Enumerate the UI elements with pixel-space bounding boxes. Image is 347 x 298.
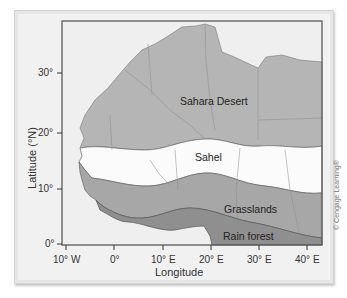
label-sahel: Sahel <box>195 151 222 163</box>
x-tick-10e: 10° E <box>151 254 176 265</box>
y-axis-title: Latitude (°N) <box>26 118 38 198</box>
y-tick-10: 10° <box>38 183 53 194</box>
y-tick-20: 20° <box>38 127 53 138</box>
copyright-credit: © Cengage Learning® <box>333 160 340 230</box>
label-sahara-desert: Sahara Desert <box>180 95 248 107</box>
x-tick-0: 0° <box>110 254 120 265</box>
y-axis-ticks <box>57 73 62 244</box>
x-axis-title: Longitude <box>155 266 203 278</box>
y-tick-0: 0° <box>45 238 55 249</box>
x-tick-10w: 10° W <box>53 254 80 265</box>
y-tick-30: 30° <box>38 67 53 78</box>
x-tick-20e: 20° E <box>199 254 224 265</box>
x-tick-30e: 30° E <box>247 254 272 265</box>
x-axis-ticks <box>66 245 307 250</box>
label-rain-forest: Rain forest <box>223 230 274 242</box>
x-tick-40e: 40° E <box>295 254 320 265</box>
label-grasslands: Grasslands <box>224 203 277 215</box>
